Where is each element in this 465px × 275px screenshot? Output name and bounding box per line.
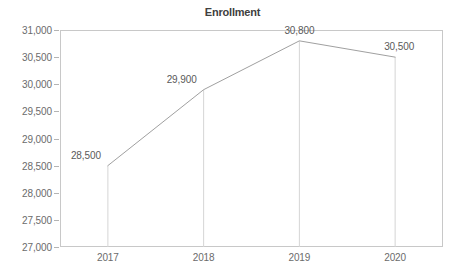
x-axis: 2017201820192020 bbox=[60, 250, 443, 270]
enrollment-series-line bbox=[108, 41, 395, 166]
data-point-label: 30,800 bbox=[284, 25, 314, 36]
x-tick-label: 2019 bbox=[288, 252, 310, 263]
x-tick-label: 2020 bbox=[384, 252, 406, 263]
enrollment-line-chart: Enrollment 31,00030,50030,00029,50029,00… bbox=[0, 0, 465, 275]
data-point-label: 28,500 bbox=[71, 150, 101, 161]
droplines-group bbox=[108, 41, 395, 247]
x-tick-label: 2017 bbox=[97, 252, 119, 263]
data-point-label: 29,900 bbox=[167, 74, 197, 85]
x-tick-label: 2018 bbox=[193, 252, 215, 263]
data-point-label: 30,500 bbox=[384, 41, 414, 52]
